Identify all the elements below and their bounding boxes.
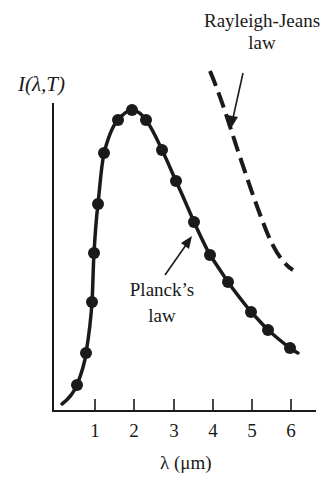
x-ticks xyxy=(95,399,291,411)
rayleigh-arrow xyxy=(227,73,243,130)
x-tick-label-3: 3 xyxy=(164,420,184,442)
rayleigh-jeans-label-line1: Rayleigh-Jeans xyxy=(198,10,326,32)
x-axis-label: λ (μm) xyxy=(160,452,212,474)
x-tick-label-6: 6 xyxy=(281,420,301,442)
planck-label-line2: law xyxy=(122,303,202,329)
rayleigh-jeans-curve xyxy=(210,71,293,270)
rayleigh-jeans-label-line2: law xyxy=(198,32,326,54)
x-tick-label-2: 2 xyxy=(124,420,144,442)
planck-label-line1: Planck’s xyxy=(122,277,202,303)
planck-arrow xyxy=(165,236,192,275)
rayleigh-jeans-annotation: Rayleigh-Jeans law xyxy=(198,10,326,54)
x-tick-label-5: 5 xyxy=(242,420,262,442)
x-tick-label-4: 4 xyxy=(203,420,223,442)
x-tick-label-1: 1 xyxy=(85,420,105,442)
y-axis-label: I(λ,T) xyxy=(18,72,65,97)
planck-annotation: Planck’s law xyxy=(122,277,202,329)
